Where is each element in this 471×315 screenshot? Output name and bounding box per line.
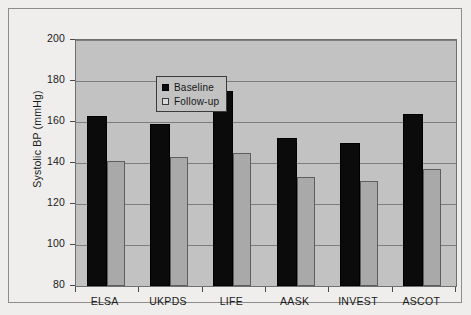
- plot-area: Baseline Follow-up: [75, 39, 457, 287]
- legend-item-baseline: Baseline: [162, 80, 219, 94]
- gridline: [76, 81, 456, 82]
- y-axis-tick-label: 100: [9, 237, 65, 249]
- gridline: [76, 40, 456, 41]
- legend-item-followup: Follow-up: [162, 94, 219, 108]
- x-axis-tick-mark: [265, 287, 266, 292]
- legend-label-baseline: Baseline: [174, 82, 214, 93]
- legend-label-followup: Follow-up: [174, 96, 219, 107]
- x-axis-tick-mark: [202, 287, 203, 292]
- bar-followup: [233, 153, 251, 286]
- bar-baseline: [150, 124, 170, 286]
- x-axis-tick-mark: [328, 287, 329, 292]
- bar-followup: [423, 169, 441, 286]
- legend-swatch-followup-icon: [162, 98, 169, 105]
- gridline: [76, 245, 456, 246]
- bar-baseline: [277, 138, 297, 286]
- bar-baseline: [213, 91, 233, 286]
- gridline: [76, 122, 456, 123]
- figure: 80100120140160180200 Systolic BP (mmHg) …: [0, 0, 471, 315]
- x-axis-tick-mark: [455, 287, 456, 292]
- legend-swatch-baseline-icon: [162, 84, 169, 91]
- y-axis-title: Systolic BP (mmHg): [31, 49, 43, 229]
- x-axis: ELSAUKPDSLIFEAASKINVESTASCOT: [75, 287, 457, 313]
- bar-followup: [107, 161, 125, 286]
- y-axis-tick-label: 200: [9, 32, 65, 44]
- bar-followup: [170, 157, 188, 286]
- x-axis-tick-mark: [138, 287, 139, 292]
- bar-followup: [297, 177, 315, 286]
- bar-followup: [360, 181, 378, 286]
- gridline: [76, 204, 456, 205]
- y-axis-tick-label: 80: [9, 278, 65, 290]
- bar-baseline: [403, 114, 423, 286]
- gridline: [76, 163, 456, 164]
- x-axis-tick-mark: [75, 287, 76, 292]
- x-axis-tick-mark: [392, 287, 393, 292]
- bar-baseline: [340, 143, 360, 287]
- chart-legend: Baseline Follow-up: [156, 76, 227, 112]
- figure-frame: 80100120140160180200 Systolic BP (mmHg) …: [8, 8, 462, 303]
- bar-baseline: [87, 116, 107, 286]
- x-axis-tick-label: ASCOT: [381, 295, 461, 307]
